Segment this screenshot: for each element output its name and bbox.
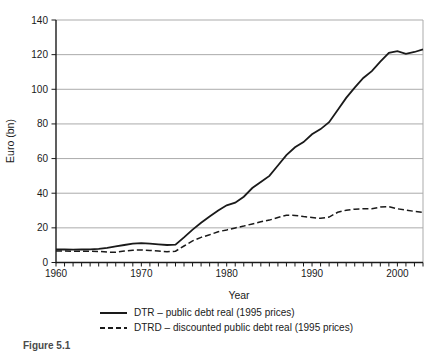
dtr-solid-line-sample xyxy=(100,312,127,314)
legend-item-dtr: DTR – public debt real (1995 prices) xyxy=(100,306,353,320)
svg-text:100: 100 xyxy=(31,84,48,95)
svg-text:1970: 1970 xyxy=(130,268,153,279)
y-axis-title: Euro (bn) xyxy=(4,119,16,163)
svg-text:1990: 1990 xyxy=(301,268,324,279)
svg-text:20: 20 xyxy=(37,222,49,233)
dtrd-dashed-line-sample xyxy=(100,327,127,329)
svg-text:120: 120 xyxy=(31,49,48,60)
series-line-dtr xyxy=(56,49,423,249)
legend: DTR – public debt real (1995 prices) DTR… xyxy=(100,306,353,335)
chart: 02040608010012014019601970198019902000 E… xyxy=(0,0,442,304)
svg-text:1960: 1960 xyxy=(45,268,68,279)
data-series xyxy=(56,49,423,252)
svg-text:2000: 2000 xyxy=(386,268,409,279)
svg-text:1980: 1980 xyxy=(216,268,239,279)
x-axis-title: Year xyxy=(228,289,250,301)
gridlines xyxy=(56,20,423,263)
dtr-legend-label: DTR – public debt real (1995 prices) xyxy=(134,306,295,320)
svg-text:0: 0 xyxy=(42,257,48,268)
dtrd-legend-label: DTRD – discounted public debt real (1995… xyxy=(134,321,353,335)
legend-item-dtrd: DTRD – discounted public debt real (1995… xyxy=(100,321,353,335)
tick-labels: 02040608010012014019601970198019902000 xyxy=(31,15,409,279)
axes xyxy=(52,20,424,267)
svg-text:80: 80 xyxy=(37,118,49,129)
series-line-dtrd xyxy=(56,207,423,253)
figure-caption: Figure 5.1 xyxy=(23,340,70,351)
svg-text:140: 140 xyxy=(31,15,48,26)
svg-text:40: 40 xyxy=(37,188,49,199)
svg-text:60: 60 xyxy=(37,153,49,164)
